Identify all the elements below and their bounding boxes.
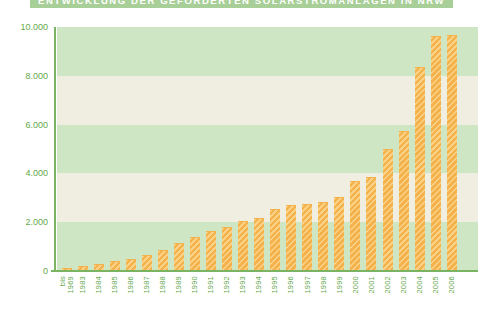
x-label-1999: 1999 (336, 276, 344, 316)
x-label-1987: 1987 (143, 276, 151, 316)
x-label-1990: 1990 (191, 276, 199, 316)
x-label-1992: 1992 (223, 276, 231, 316)
bar-1995 (270, 209, 280, 271)
x-label-1988: 1988 (159, 276, 167, 316)
x-label-1998: 1998 (320, 276, 328, 316)
y-tick-label-4000: 4.000 (0, 168, 48, 178)
x-label-2000: 2000 (352, 276, 360, 316)
bar-1998 (318, 202, 328, 271)
x-label-1984: 1984 (95, 276, 103, 316)
x-axis-line (51, 270, 478, 272)
bar-2002 (383, 149, 393, 271)
bar-2001 (366, 177, 376, 271)
bar-1991 (206, 231, 216, 271)
bar-1993 (238, 221, 248, 271)
bar-2003 (399, 131, 409, 271)
x-label-1985: 1985 (111, 276, 119, 316)
bar-1996 (286, 205, 296, 271)
y-tick-label-10000: 10.000 (0, 22, 48, 32)
chart-title: ENTWICKLUNG DER GEFÖRDERTEN SOLARSTROMAN… (30, 0, 453, 6)
x-label-2001: 2001 (368, 276, 376, 316)
x-label-1993: 1993 (239, 276, 247, 316)
bar-2000 (350, 181, 360, 271)
bar-1994 (254, 218, 264, 271)
y-tick-label-6000: 6.000 (0, 120, 48, 130)
bar-2004 (415, 67, 425, 271)
y-tick-label-2000: 2.000 (0, 217, 48, 227)
y-axis-line (54, 27, 56, 272)
x-label-1983: 1983 (79, 276, 87, 316)
page-root: ENTWICKLUNG DER GEFÖRDERTEN SOLARSTROMAN… (0, 0, 486, 319)
x-label-1989: 1989 (175, 276, 183, 316)
bar-1990 (190, 237, 200, 271)
bar-1989 (174, 243, 184, 271)
y-tick-label-8000: 8.000 (0, 71, 48, 81)
chart-title-bar: ENTWICKLUNG DER GEFÖRDERTEN SOLARSTROMAN… (30, 0, 453, 8)
x-label-2004: 2004 (416, 276, 424, 316)
x-label-1994: 1994 (255, 276, 263, 316)
bar-1988 (158, 250, 168, 271)
x-label-1996: 1996 (287, 276, 295, 316)
bar-2006 (447, 35, 457, 271)
x-label-2006: 2006 (448, 276, 456, 316)
bar-1997 (302, 204, 312, 271)
bar-1992 (222, 227, 232, 271)
x-label-2002: 2002 (384, 276, 392, 316)
y-tick-label-0: 0 (0, 266, 48, 276)
x-label-1986: 1986 (127, 276, 135, 316)
x-label-1997: 1997 (304, 276, 312, 316)
x-label-2003: 2003 (400, 276, 408, 316)
plot-area (57, 27, 478, 271)
bar-2005 (431, 36, 441, 271)
bar-1999 (334, 197, 344, 271)
bar-1987 (142, 255, 152, 271)
x-label-2005: 2005 (432, 276, 440, 316)
x-label-1995: 1995 (271, 276, 279, 316)
x-label-bis-1969: bis 1969 (59, 276, 74, 316)
x-label-1991: 1991 (207, 276, 215, 316)
